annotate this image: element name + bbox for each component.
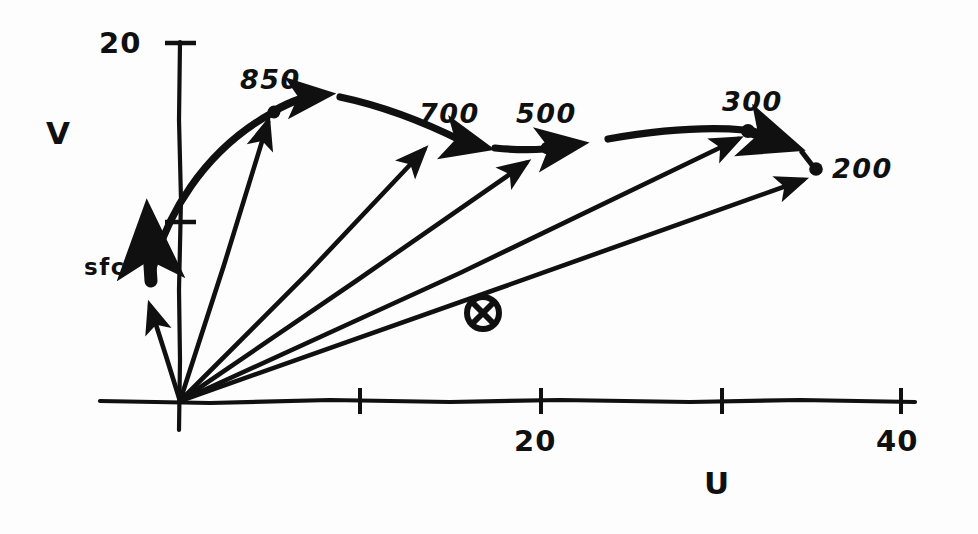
wind-vector-500 [180,163,526,401]
y-axis-title: V [46,118,71,149]
hodograph-segment-sfc-850 [150,113,272,282]
y-axis-tick-label-20: 20 [99,29,141,58]
level-label-850: 850 [240,66,301,93]
level-label-200: 200 [832,155,893,182]
y-axis-line [179,42,181,430]
hodograph-segment-850-700 [274,95,318,111]
level-label-500: 500 [516,100,577,127]
level-label-sfc: sfc [84,256,126,279]
x-axis-tick-label-20: 20 [514,427,556,456]
wind-vector-200 [180,180,803,401]
wind-vector-300 [180,139,738,401]
wind-vector-sfc [150,306,180,401]
hodograph-canvas [0,0,978,534]
storm-motion-marker [467,297,499,329]
level-label-700: 700 [419,100,480,127]
wind-vector-700 [180,150,424,401]
hodograph-segment-500-300 [547,145,570,148]
hodograph-segment-300-200b [802,152,812,165]
level-label-300: 300 [722,88,783,115]
wind-vector-group [150,122,803,401]
x-axis-title: U [704,468,730,499]
hodograph-segment-700-500 [464,142,476,145]
x-axis-line [100,400,915,403]
hodograph-point-200 [809,162,823,176]
x-axis-tick-label-40: 40 [876,427,918,456]
hodograph-figure: 20 V sfc 850 700 500 300 200 20 40 U [0,0,978,534]
hodograph-segment-700-500b [495,148,545,150]
hodograph-segment-500-300b [608,129,744,139]
hodograph-segment-300-200 [748,131,783,143]
